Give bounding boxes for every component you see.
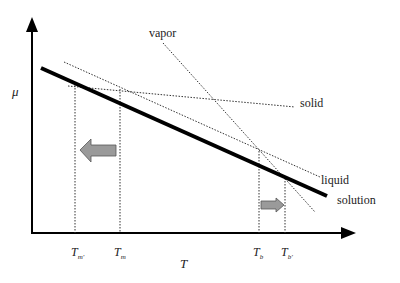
solid-label: solid xyxy=(300,96,323,110)
left-shift-arrow-icon xyxy=(80,139,116,162)
vapor-line xyxy=(163,43,315,212)
vapor-label: vapor xyxy=(149,26,176,40)
solution-label: solution xyxy=(337,193,376,207)
solution-line xyxy=(41,68,327,196)
x-axis-arrowhead-icon xyxy=(341,227,356,239)
tick-label-tb: Tb xyxy=(253,245,264,261)
y-axis-label: μ xyxy=(11,84,19,99)
x-axis-label: T xyxy=(180,256,188,271)
tick-label-tb-prime: Tb' xyxy=(281,245,293,261)
liquid-label: liquid xyxy=(321,173,349,187)
phase-diagram: μ T vapor solid liquid solution Tm' Tm T… xyxy=(0,0,400,283)
y-axis-arrowhead-icon xyxy=(26,17,38,32)
tick-label-tm: Tm xyxy=(114,245,126,261)
tick-label-tm-prime: Tm' xyxy=(71,245,85,261)
liquid-line xyxy=(64,62,320,177)
right-shift-arrow-icon xyxy=(261,198,284,212)
